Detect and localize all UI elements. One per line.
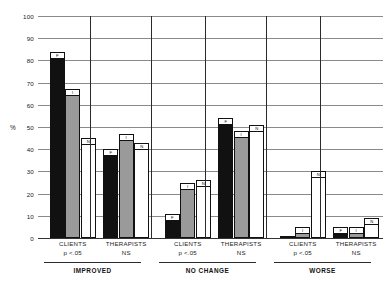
bar-f: F bbox=[218, 118, 233, 238]
bar-tag-n: N bbox=[135, 144, 148, 150]
bar-tag-n: N bbox=[365, 219, 378, 225]
bar-tag-i: I bbox=[235, 132, 248, 138]
bar-tag-f: F bbox=[166, 215, 179, 221]
bar-tag-n: N bbox=[250, 126, 263, 132]
bar-i: I bbox=[349, 227, 364, 238]
y-tick-60: 60 bbox=[6, 101, 34, 108]
bar-n: N bbox=[81, 138, 96, 238]
gridline-0 bbox=[38, 238, 383, 239]
x-label-main: THERAPISTS bbox=[106, 240, 147, 247]
bar-f: F bbox=[333, 227, 348, 238]
bar-tag-i: I bbox=[181, 184, 194, 190]
bar-f: F bbox=[103, 149, 118, 238]
x-label-main: THERAPISTS bbox=[221, 240, 262, 247]
section-title: NO CHANGE bbox=[159, 267, 256, 274]
section-title: WORSE bbox=[274, 267, 371, 274]
y-tick-40: 40 bbox=[6, 146, 34, 153]
bar-i: I bbox=[295, 227, 310, 238]
divider-inner bbox=[205, 16, 206, 238]
bar-n: N bbox=[134, 143, 149, 238]
bar-f bbox=[280, 236, 295, 238]
y-tick-30: 30 bbox=[6, 168, 34, 175]
y-tick-20: 20 bbox=[6, 190, 34, 197]
section-improved: IMPROVED bbox=[44, 262, 141, 274]
bar-tag-i: I bbox=[296, 228, 309, 234]
section-rule bbox=[159, 262, 256, 263]
y-tick-70: 70 bbox=[6, 79, 34, 86]
x-label-main: CLIENTS bbox=[59, 240, 87, 247]
bar-chart: FINFINFINFININFIN 0102030405060708090100… bbox=[0, 0, 391, 285]
y-tick-90: 90 bbox=[6, 35, 34, 42]
x-axis-labels: CLIENTSp <.05THERAPISTSNSCLIENTSp <.05TH… bbox=[38, 240, 383, 262]
plot-area: FINFINFINFININFIN bbox=[38, 16, 383, 238]
divider-inner bbox=[320, 16, 321, 238]
x-label-main: CLIENTS bbox=[174, 240, 202, 247]
bar-i: I bbox=[180, 183, 195, 239]
x-label-sub: NS bbox=[319, 249, 391, 258]
bar-i: I bbox=[65, 89, 80, 238]
bar-tag-i: I bbox=[120, 135, 133, 141]
section-rule bbox=[44, 262, 141, 263]
section-worse: WORSE bbox=[274, 262, 371, 274]
bar-n: N bbox=[364, 218, 379, 238]
y-axis-label: % bbox=[10, 124, 16, 131]
section-title: IMPROVED bbox=[44, 267, 141, 274]
bar-f: F bbox=[50, 52, 65, 238]
bar-tag-i: I bbox=[350, 228, 363, 234]
bar-i: I bbox=[234, 131, 249, 238]
bar-n: N bbox=[196, 180, 211, 238]
section-no-change: NO CHANGE bbox=[159, 262, 256, 274]
bar-tag-f: F bbox=[104, 150, 117, 156]
bar-tag-i: I bbox=[66, 90, 79, 96]
divider-section bbox=[151, 16, 152, 238]
section-rule bbox=[274, 262, 371, 263]
bar-tag-f: F bbox=[334, 228, 347, 234]
y-tick-0: 0 bbox=[6, 235, 34, 242]
y-tick-10: 10 bbox=[6, 212, 34, 219]
y-tick-100: 100 bbox=[6, 13, 34, 20]
bar-tag-f: F bbox=[219, 119, 232, 125]
bar-tag-n: N bbox=[82, 139, 95, 145]
divider-inner bbox=[90, 16, 91, 238]
bar-n: N bbox=[311, 171, 326, 238]
bar-i: I bbox=[119, 134, 134, 238]
bar-n: N bbox=[249, 125, 264, 238]
x-label-main: THERAPISTS bbox=[336, 240, 377, 247]
section-labels: IMPROVEDNO CHANGEWORSE bbox=[38, 262, 383, 282]
bar-f: F bbox=[165, 214, 180, 238]
bar-tag-n: N bbox=[197, 181, 210, 187]
x-label-therapists: THERAPISTSNS bbox=[319, 240, 391, 257]
divider-section bbox=[266, 16, 267, 238]
bar-tag-f: F bbox=[51, 53, 64, 59]
x-label-main: CLIENTS bbox=[289, 240, 317, 247]
bar-tag-n: N bbox=[312, 172, 325, 178]
y-tick-80: 80 bbox=[6, 57, 34, 64]
